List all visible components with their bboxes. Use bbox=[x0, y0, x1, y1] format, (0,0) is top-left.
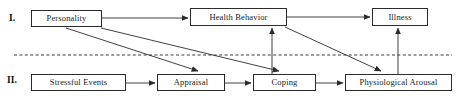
tier-label-tier-1: I. bbox=[9, 14, 15, 24]
node-stressful-events[interactable]: Stressful Events bbox=[31, 74, 126, 91]
node-appraisal[interactable]: Appraisal bbox=[157, 74, 225, 91]
node-physiological-arousal[interactable]: Physiological Arousal bbox=[345, 74, 452, 91]
node-illness[interactable]: Illness bbox=[372, 8, 428, 26]
edge-health-behavior-physiological bbox=[285, 27, 381, 71]
node-label-personality: Personality bbox=[47, 14, 87, 23]
node-label-appraisal: Appraisal bbox=[174, 78, 208, 87]
node-health-behavior[interactable]: Health Behavior bbox=[190, 8, 287, 26]
node-label-health-behavior: Health Behavior bbox=[209, 13, 267, 22]
node-personality[interactable]: Personality bbox=[31, 10, 102, 27]
node-label-stressful-events: Stressful Events bbox=[50, 78, 107, 87]
edge-personality-coping bbox=[101, 28, 279, 71]
tier-label-tier-2: II. bbox=[7, 76, 17, 86]
node-label-physiological-arousal: Physiological Arousal bbox=[360, 78, 438, 87]
edge-personality-appraisal bbox=[66, 28, 198, 71]
node-coping[interactable]: Coping bbox=[253, 74, 316, 91]
node-label-illness: Illness bbox=[388, 13, 411, 22]
stress-health-model-diagram: PersonalityHealth BehaviorIllnessStressf… bbox=[0, 0, 459, 98]
node-label-coping: Coping bbox=[272, 78, 298, 87]
